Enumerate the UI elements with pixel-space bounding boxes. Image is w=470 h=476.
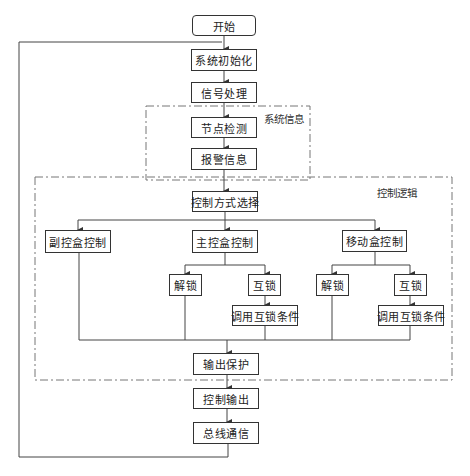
main-unlock-node: 解锁: [169, 274, 202, 296]
mobile-unlock-node: 解锁: [316, 274, 349, 296]
system-init-node: 系统初始化: [191, 49, 257, 71]
signal-processing-node: 信号处理: [191, 82, 257, 103]
mode-select-node: 控制方式选择: [192, 191, 258, 212]
mobile-call-interlock-node: 调用互锁条件: [378, 305, 444, 326]
start-node: 开始: [192, 15, 256, 36]
output-protection-node: 输出保护: [193, 353, 259, 375]
control-logic-label: 控制逻辑: [377, 185, 417, 200]
main-box-control-node: 主控盒控制: [192, 230, 258, 253]
mobile-box-control-node: 移动盒控制: [342, 230, 407, 252]
main-interlock-node: 互锁: [248, 274, 281, 296]
control-output-node: 控制输出: [193, 388, 259, 409]
system-info-label: 系统信息: [264, 111, 304, 126]
alarm-info-node: 报警信息: [191, 148, 257, 170]
bus-communication-node: 总线通信: [193, 422, 259, 444]
node-detection-node: 节点检测: [191, 117, 257, 138]
sub-box-control-node: 副控盒控制: [45, 230, 111, 253]
mobile-interlock-node: 互锁: [394, 274, 427, 296]
main-call-interlock-node: 调用互锁条件: [232, 305, 298, 326]
